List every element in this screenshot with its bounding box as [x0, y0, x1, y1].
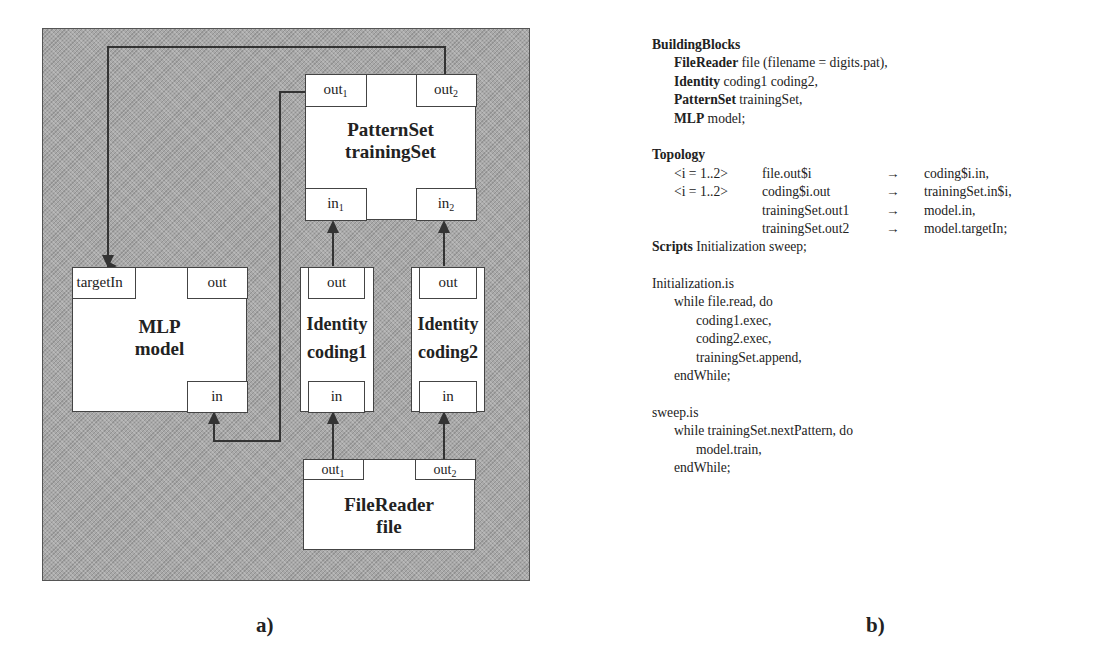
- code-header-buildingblocks: BuildingBlocks: [652, 36, 888, 54]
- block-title: PatternSet trainingSet: [306, 119, 475, 163]
- block-type: PatternSet: [306, 119, 475, 141]
- block-type: MLP: [73, 316, 246, 338]
- port-subscript: 2: [453, 88, 458, 99]
- port-label: out: [323, 81, 342, 97]
- block-title: MLP model: [73, 316, 246, 360]
- port-in[interactable]: in: [308, 381, 365, 413]
- code-line: endWhile;: [652, 459, 888, 477]
- port-targetin[interactable]: targetIn: [72, 267, 136, 299]
- block-filereader-file[interactable]: out1 out2 FileReader file: [303, 459, 475, 550]
- code-line: coding2.exec,: [652, 330, 888, 348]
- block-identity-coding2[interactable]: out Identity coding2 in: [411, 267, 485, 412]
- block-patternset-trainingset[interactable]: out1 out2 PatternSet trainingSet in1 in2: [305, 74, 476, 220]
- code-line: while trainingSet.nextPattern, do: [652, 422, 888, 440]
- port-subscript: 1: [339, 468, 344, 479]
- port-subscript: 1: [339, 202, 344, 213]
- port-label: in: [327, 195, 339, 211]
- port-label: out: [434, 462, 452, 477]
- topology-row: trainingSet.out2→model.targetIn;: [652, 220, 888, 238]
- code-init-header: Initialization.is: [652, 275, 888, 293]
- block-title: Identity coding1: [301, 310, 373, 366]
- port-out[interactable]: out: [187, 267, 248, 299]
- code-line: trainingSet.append,: [652, 349, 888, 367]
- topology-row: trainingSet.out1→model.in,: [652, 202, 888, 220]
- code-listing: BuildingBlocks FileReader file (filename…: [652, 36, 888, 477]
- port-in2[interactable]: in2: [416, 188, 477, 221]
- port-in1[interactable]: in1: [305, 188, 367, 221]
- code-line: Identity coding1 coding2,: [652, 73, 888, 91]
- caption-a: a): [256, 613, 274, 638]
- port-subscript: 2: [451, 468, 456, 479]
- code-header-topology: Topology: [652, 146, 888, 164]
- port-in[interactable]: in: [187, 381, 248, 413]
- block-instance: trainingSet: [306, 141, 475, 163]
- port-out[interactable]: out: [419, 267, 477, 299]
- block-title: Identity coding2: [412, 310, 484, 366]
- block-instance: coding2: [412, 338, 484, 366]
- block-identity-coding1[interactable]: out Identity coding1 in: [300, 267, 374, 412]
- port-label: out: [322, 462, 340, 477]
- port-out[interactable]: out: [308, 267, 365, 299]
- port-out1[interactable]: out1: [303, 459, 364, 480]
- code-line: coding1.exec,: [652, 312, 888, 330]
- topology-row: <i = 1..2>coding$i.out→trainingSet.in$i,: [652, 183, 888, 201]
- port-label: out: [434, 81, 453, 97]
- code-line: endWhile;: [652, 367, 888, 385]
- code-line: PatternSet trainingSet,: [652, 91, 888, 109]
- block-instance: coding1: [301, 338, 373, 366]
- block-type: Identity: [412, 310, 484, 338]
- port-subscript: 2: [449, 202, 454, 213]
- code-line: model.train,: [652, 441, 888, 459]
- code-scripts: Scripts Initialization sweep;: [652, 238, 888, 256]
- port-in[interactable]: in: [419, 381, 477, 413]
- port-label: in: [438, 195, 450, 211]
- block-instance: model: [73, 338, 246, 360]
- code-sweep-header: sweep.is: [652, 404, 888, 422]
- code-line: FileReader file (filename = digits.pat),: [652, 54, 888, 72]
- code-line: MLP model;: [652, 110, 888, 128]
- code-line: while file.read, do: [652, 293, 888, 311]
- block-type: FileReader: [304, 494, 474, 516]
- block-title: FileReader file: [304, 494, 474, 538]
- port-subscript: 1: [343, 88, 348, 99]
- topology-row: <i = 1..2>file.out$i→coding$i.in,: [652, 165, 888, 183]
- port-out2[interactable]: out2: [415, 459, 476, 480]
- caption-b: b): [866, 613, 885, 638]
- block-mlp-model[interactable]: targetIn out MLP model in: [72, 267, 247, 412]
- block-type: Identity: [301, 310, 373, 338]
- port-out1[interactable]: out1: [305, 74, 367, 107]
- block-instance: file: [304, 516, 474, 538]
- port-out2[interactable]: out2: [416, 74, 477, 107]
